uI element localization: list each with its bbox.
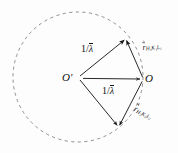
ewald-sphere-circle [13,12,143,142]
reciprocal-vector-lower [120,81,143,125]
lambda-glyph-center: λ [110,86,114,96]
point-label-origin: O [145,73,153,84]
reciprocal-vector-upper [127,41,143,78]
point-label-center: O' [62,72,72,83]
lambda-glyph-upper: λ [89,44,93,54]
length-label-upper-arm: 1/λ [81,44,93,54]
vector-subscript-upper: H₁K₁L₁ [145,44,161,52]
length-label-center-arm: 1/λ [102,86,114,96]
radius-line-origin [83,78,140,79]
ewald-sphere-figure: O' O 1/λ 1/λ r H₁K₁L₁ r H₂K₂L₂ [0,0,178,153]
